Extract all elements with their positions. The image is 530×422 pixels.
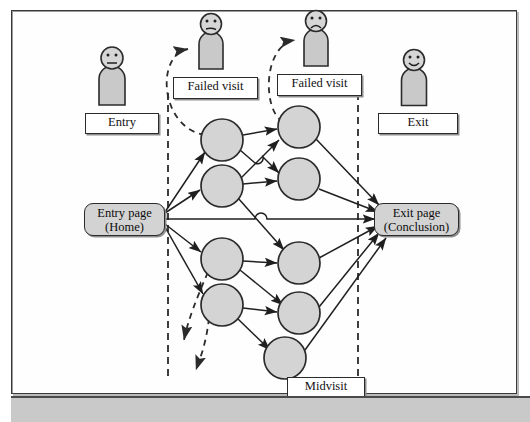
entry-person-icon	[99, 47, 125, 105]
node-L2[interactable]	[201, 165, 243, 207]
exit-page-box[interactable]: Exit page (Conclusion)	[374, 203, 459, 236]
label-failed-visit-2: Failed visit	[277, 74, 362, 96]
edge-L1-R2	[240, 150, 279, 173]
entry-page-box[interactable]: Entry page (Home)	[84, 203, 165, 236]
entry-page-line1: Entry page	[97, 206, 152, 220]
edge-L3-R3	[243, 261, 277, 263]
exit-page-line2: (Conclusion)	[384, 220, 449, 234]
edge-entry-L4	[165, 227, 203, 294]
abandon-arrow-2	[196, 318, 209, 370]
edge-entry-exit-direct	[165, 213, 375, 219]
failed-visit-person-2-icon	[304, 11, 328, 67]
midvisit-boundaries	[168, 93, 358, 380]
bottom-grey-band	[11, 396, 530, 422]
edge-L4-R5	[237, 318, 270, 350]
node-L4[interactable]	[201, 284, 243, 326]
node-L3[interactable]	[201, 238, 243, 280]
entry-page-line2: (Home)	[105, 220, 144, 234]
edge-L2-R1	[241, 140, 279, 178]
edge-entry-L1	[165, 152, 205, 212]
failed-visit-person-1-icon	[199, 14, 223, 70]
edge-R3-exit	[319, 226, 378, 258]
edge-L2-R3	[238, 198, 284, 250]
label-exit: Exit	[378, 113, 458, 134]
label-failed-visit-1: Failed visit	[173, 77, 258, 99]
node-R5[interactable]	[264, 337, 306, 379]
edge-R1-exit	[316, 139, 379, 205]
node-R4[interactable]	[278, 292, 320, 334]
edge-R4-exit	[319, 233, 379, 307]
label-midvisit: Midvisit	[287, 377, 365, 398]
node-R1[interactable]	[278, 106, 320, 148]
node-R2[interactable]	[278, 158, 320, 200]
node-left-column	[201, 119, 243, 326]
edge-L3-R4	[240, 270, 283, 305]
edge-L2-R2	[243, 181, 277, 184]
exit-page-line1: Exit page	[393, 206, 441, 220]
label-entry: Entry	[85, 113, 159, 134]
exit-person-icon	[402, 50, 427, 106]
node-R3[interactable]	[278, 242, 320, 284]
abandon-arrows	[184, 272, 209, 370]
edge-R2-exit	[319, 189, 378, 212]
node-L1[interactable]	[201, 119, 243, 161]
edges	[165, 129, 386, 350]
edge-entry-L2	[165, 190, 200, 213]
edge-L1-R1	[243, 129, 277, 135]
edge-L4-R4	[243, 308, 277, 312]
